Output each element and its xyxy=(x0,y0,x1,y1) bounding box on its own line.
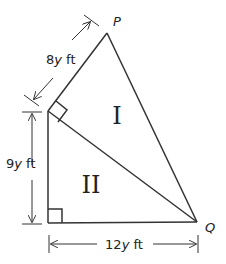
right-angle-mark-b xyxy=(48,209,62,223)
region-label-ii: II xyxy=(82,171,101,199)
dimension-label-12y: 12y ft xyxy=(105,237,143,252)
edge-pa xyxy=(48,33,107,111)
dimension-label-8y: 8y ft xyxy=(46,52,76,67)
edge-aq-diagonal xyxy=(48,111,197,222)
vertex-label-p: P xyxy=(113,14,121,29)
dimension-vertical: 9y ft xyxy=(6,112,42,224)
geometry-figure: I II P Q 8y ft 9y ft 12y ft xyxy=(0,0,226,264)
dimension-bottom: 12y ft xyxy=(49,235,198,253)
vertex-label-q: Q xyxy=(205,220,215,235)
dimension-label-9y: 9y ft xyxy=(6,156,36,171)
edge-bq xyxy=(48,222,197,223)
region-label-i: I xyxy=(112,102,121,130)
